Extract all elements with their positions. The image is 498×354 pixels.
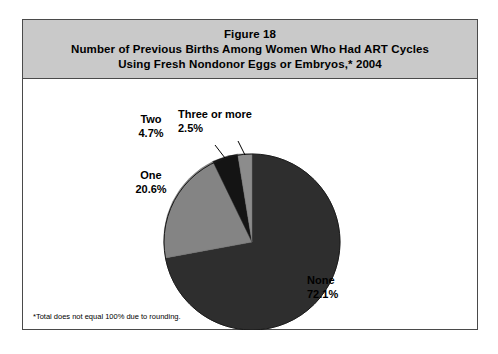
pie-label-three-or-more-name: Three or more (178, 108, 252, 122)
pie-label-none-value: 72.1% (307, 288, 338, 302)
pie-label-none: None 72.1% (307, 274, 338, 301)
figure-title-line-1: Number of Previous Births Among Women Wh… (71, 42, 429, 57)
figure-number: Figure 18 (224, 27, 276, 42)
figure-frame: Figure 18 Number of Previous Births Amon… (22, 19, 478, 330)
pie-label-three-or-more: Three or more 2.5% (178, 108, 252, 135)
pie-label-two: Two 4.7% (129, 113, 173, 140)
pie-label-one: One 20.6% (127, 169, 175, 196)
pie-label-two-value: 4.7% (129, 127, 173, 141)
figure-title-line-2: Using Fresh Nondonor Eggs or Embryos,* 2… (118, 57, 382, 72)
pie-label-one-name: One (127, 169, 175, 183)
pie-label-one-value: 20.6% (127, 183, 175, 197)
leader-line-three-or-more (238, 141, 245, 155)
figure-title-band: Figure 18 Number of Previous Births Amon… (23, 20, 477, 79)
pie-label-three-or-more-value: 2.5% (178, 122, 252, 136)
figure-footnote: *Total does not equal 100% due to roundi… (33, 312, 181, 321)
pie-label-none-name: None (307, 274, 338, 288)
leader-line-two (215, 145, 225, 158)
plot-area: Two 4.7% Three or more 2.5% One 20.6% No… (23, 79, 477, 329)
pie-label-two-name: Two (129, 113, 173, 127)
